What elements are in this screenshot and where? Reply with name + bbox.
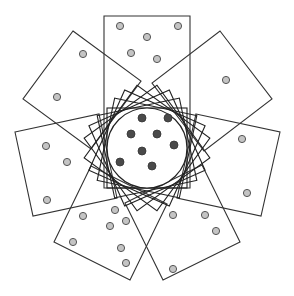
light-dot xyxy=(174,22,181,29)
light-dot xyxy=(127,49,134,56)
light-dot xyxy=(238,135,245,142)
light-dot xyxy=(63,158,70,165)
light-dot xyxy=(122,217,129,224)
light-dot xyxy=(117,244,124,251)
dark-dot xyxy=(127,130,135,138)
light-dot xyxy=(69,238,76,245)
dark-dot xyxy=(148,162,156,170)
dark-dot xyxy=(116,158,124,166)
light-dot xyxy=(53,93,60,100)
overlapping-squares-diagram xyxy=(0,0,294,296)
light-dot xyxy=(79,50,86,57)
dark-dot xyxy=(170,141,178,149)
light-dot xyxy=(169,265,176,272)
light-dot xyxy=(222,76,229,83)
light-dot xyxy=(106,222,113,229)
light-dot xyxy=(243,189,250,196)
light-dot xyxy=(153,55,160,62)
dark-dot xyxy=(153,130,161,138)
light-dot xyxy=(143,33,150,40)
light-dot xyxy=(212,227,219,234)
light-dot xyxy=(201,211,208,218)
light-dot xyxy=(111,206,118,213)
light-dot xyxy=(122,259,129,266)
light-dot xyxy=(43,196,50,203)
light-dot xyxy=(169,211,176,218)
dark-dot xyxy=(138,147,146,155)
light-dot xyxy=(79,212,86,219)
light-dot xyxy=(116,22,123,29)
dark-dot xyxy=(138,114,146,122)
dark-dot xyxy=(164,114,172,122)
light-dot xyxy=(42,142,49,149)
